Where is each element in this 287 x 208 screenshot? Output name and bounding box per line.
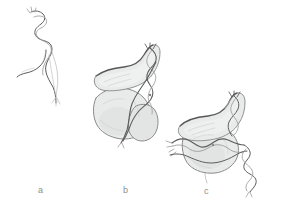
panel-b-dna-bottom-tick <box>118 143 124 148</box>
panel-a-group <box>17 7 60 106</box>
panel-a-helix-strand-2 <box>34 16 51 75</box>
panel-c-protein-bottom-nub <box>205 173 207 183</box>
panel-label-b: b <box>123 185 128 195</box>
panel-c-dna-tail-strand-2 <box>242 149 253 191</box>
panel-a-pencil-wisp <box>22 54 45 72</box>
panel-c-dna-contact-point <box>212 144 214 146</box>
panel-label-c: c <box>204 186 209 196</box>
panel-c-dna-tail-end-fork <box>246 192 252 197</box>
panel-a-helix-strand-1 <box>31 11 56 103</box>
illustration-canvas <box>0 0 287 208</box>
dna-protein-illustration-figure: a b c <box>0 0 287 208</box>
panel-c-dna-tail-strand-1 <box>244 145 256 192</box>
panel-b-group <box>93 43 160 148</box>
panel-a-lower-strand-dark <box>17 50 46 77</box>
panel-b-dna-contact-point <box>149 94 151 96</box>
panel-c-group <box>166 91 256 197</box>
panel-label-a: a <box>38 185 43 195</box>
panel-a-inner-strand-echo <box>49 55 55 92</box>
